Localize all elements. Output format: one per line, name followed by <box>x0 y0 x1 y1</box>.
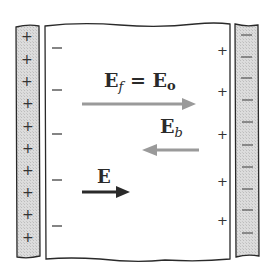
capacitor-dielectric-diagram: + + + + + + + + + + + + + + + <box>0 0 273 272</box>
svg-text:Ef = Eo: Ef = Eo <box>104 69 176 94</box>
plus-charge: + <box>21 51 33 67</box>
plus-charge: + <box>21 73 33 89</box>
bound-plus-charge: + <box>217 174 228 189</box>
dielectric-slab <box>45 23 230 261</box>
bound-plus-charge: + <box>217 127 228 142</box>
svg-text:E: E <box>97 166 111 187</box>
plus-charge: + <box>22 162 34 178</box>
right-plate <box>235 24 259 257</box>
plus-charge: + <box>22 229 34 245</box>
plus-charge: + <box>22 184 34 200</box>
plus-charge: + <box>21 28 33 44</box>
plus-charge: + <box>22 140 34 156</box>
plus-charge: + <box>22 95 34 111</box>
bound-plus-charge: + <box>217 84 228 99</box>
bound-plus-charge: + <box>217 213 228 228</box>
plus-charge: + <box>22 206 34 222</box>
bound-plus-charge: + <box>217 43 228 58</box>
free-field-label: Ef = Eo <box>104 69 176 94</box>
net-field-label: E <box>97 166 111 187</box>
plus-charge: + <box>22 118 34 134</box>
